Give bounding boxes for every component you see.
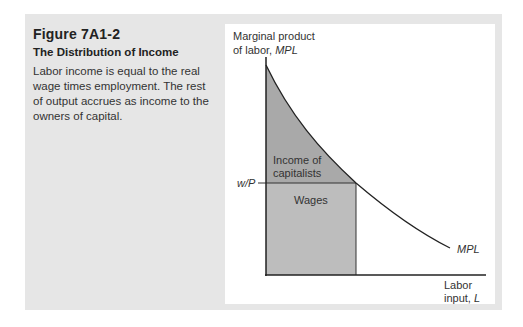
capitalist-label-line1: Income of: [273, 154, 322, 166]
y-axis-label-line2: of labor, MPL: [233, 44, 298, 56]
mpl-curve-label: MPL: [457, 243, 480, 255]
wages-label: Wages: [294, 194, 328, 206]
x-axis-label-line1: Labor: [444, 279, 472, 291]
x-axis-label-line2: input, L: [444, 292, 480, 304]
mpl-chart: Marginal product of labor, MPL Income of…: [0, 0, 523, 327]
y-axis-label-line1: Marginal product: [233, 30, 315, 42]
capitalist-label-line2: capitalists: [273, 167, 322, 179]
wage-level-label: w/P: [237, 177, 256, 189]
